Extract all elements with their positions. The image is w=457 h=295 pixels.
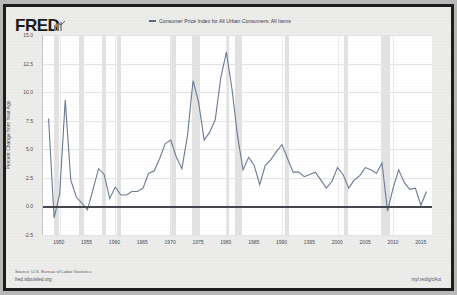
chart-mark-icon	[54, 21, 65, 31]
y-tick-label: 5.0	[26, 146, 33, 152]
x-axis-ticks: 1950195519601965197019751980198519901995…	[42, 236, 432, 250]
y-tick-label: 2.5	[26, 175, 33, 181]
fred-logo[interactable]: FRED	[15, 17, 59, 34]
chart-legend: Consumer Price Index for All Urban Consu…	[149, 18, 291, 24]
screenshot-root: FRED Consumer Price Index for All Urban …	[0, 0, 457, 295]
y-tick-label: 10.0	[23, 89, 33, 95]
fred-url[interactable]: fred.stlouisfed.org	[15, 277, 52, 282]
image-frame: FRED Consumer Price Index for All Urban …	[3, 4, 454, 291]
legend-color-swatch	[149, 20, 156, 22]
y-tick-label: 12.5	[23, 61, 33, 67]
x-tick-label: 1980	[220, 239, 231, 245]
x-tick-label: 1970	[165, 239, 176, 245]
x-tick-label: 2005	[360, 239, 371, 245]
y-tick-label: 15.0	[23, 32, 33, 38]
y-tick-label: 7.5	[26, 118, 33, 124]
chart-canvas: FRED Consumer Price Index for All Urban …	[6, 7, 451, 288]
x-tick-label: 2010	[387, 239, 398, 245]
x-tick-label: 1975	[192, 239, 203, 245]
plot-wrapper: Percent Change from Year Ago 15.012.510.…	[36, 35, 432, 250]
series-polyline	[49, 52, 427, 218]
x-tick-label: 2015	[415, 239, 426, 245]
x-tick-label: 1985	[248, 239, 259, 245]
plot-area	[42, 35, 432, 235]
legend-label: Consumer Price Index for All Urban Consu…	[159, 18, 291, 24]
x-tick-label: 2000	[332, 239, 343, 245]
y-axis-ticks: 15.012.510.07.55.02.50.0-2.5	[14, 35, 36, 235]
x-tick-label: 1965	[137, 239, 148, 245]
y-axis-title: Percent Change from Year Ago	[5, 101, 11, 170]
series-line	[43, 35, 432, 235]
short-url[interactable]: myf.red/g/cAut	[411, 277, 441, 282]
x-tick-label: 1955	[81, 239, 92, 245]
x-tick-label: 1950	[53, 239, 64, 245]
x-tick-label: 1960	[109, 239, 120, 245]
zero-reference-line	[43, 206, 432, 207]
x-tick-label: 1990	[276, 239, 287, 245]
source-note: Source: U.S. Bureau of Labor Statistics	[15, 269, 91, 274]
y-tick-label: -2.5	[24, 232, 33, 238]
x-tick-label: 1995	[304, 239, 315, 245]
y-tick-label: 0.0	[26, 203, 33, 209]
